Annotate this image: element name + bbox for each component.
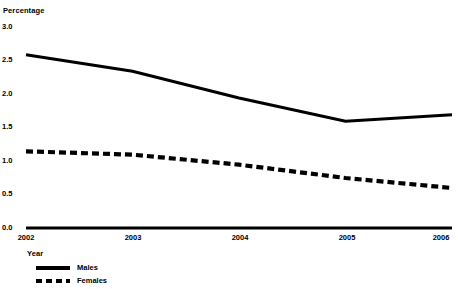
series-line-females bbox=[26, 151, 452, 188]
series-line-males bbox=[26, 55, 452, 122]
legend-item-males: Males bbox=[36, 262, 98, 274]
legend-swatch-dashed-icon bbox=[36, 279, 70, 284]
plot-area bbox=[0, 0, 458, 289]
legend-label-males: Males bbox=[77, 264, 98, 272]
legend-label-females: Females bbox=[77, 277, 107, 285]
line-chart: Percentage 3.0 2.5 2.0 1.5 1.0 0.5 0.0 2… bbox=[0, 0, 458, 289]
legend-item-females: Females bbox=[36, 275, 107, 287]
legend-swatch-solid-icon bbox=[36, 266, 70, 270]
